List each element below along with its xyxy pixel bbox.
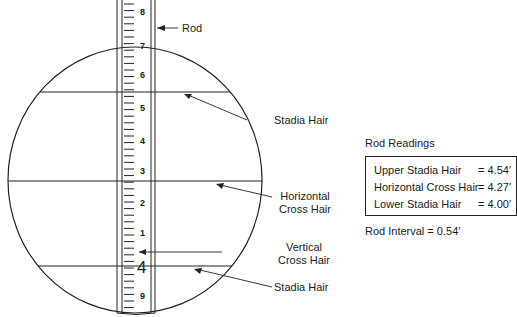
rod-number: 4 — [137, 258, 146, 278]
vertical-cross-hair-label: Vertical Cross Hair — [274, 241, 334, 267]
rod-number: 3 — [140, 166, 145, 176]
rod-number: 9 — [140, 291, 145, 301]
lower-stadia-hair-label: Stadia Hair — [274, 281, 328, 294]
rod-readings-box: Upper Stadia Hair= 4.54′ Horizontal Cros… — [365, 156, 517, 216]
rod-label: Rod — [182, 22, 202, 35]
upper-stadia-hair-label: Stadia Hair — [274, 114, 328, 127]
rod-number: 5 — [140, 103, 145, 113]
rod-number: 6 — [140, 70, 145, 80]
rod-number: 2 — [140, 198, 145, 208]
rod-number: 7 — [140, 41, 145, 51]
rod-interval: Rod Interval = 0.54′ — [365, 225, 460, 237]
reading-row-lower-stadia: Lower Stadia Hair= 4.00′ — [374, 198, 461, 210]
reading-row-upper-stadia: Upper Stadia Hair= 4.54′ — [374, 164, 461, 176]
reading-row-horizontal-cross-hair: Horizontal Cross Hair= 4.27′ — [374, 181, 479, 193]
rod-number: 4 — [140, 136, 145, 146]
rod-readings-title: Rod Readings — [365, 137, 435, 149]
horizontal-cross-hair-label: Horizontal Cross Hair — [275, 190, 335, 216]
rod-number: 1 — [140, 228, 145, 238]
rod-number: 8 — [140, 7, 145, 17]
field-of-view-circle — [8, 47, 262, 313]
